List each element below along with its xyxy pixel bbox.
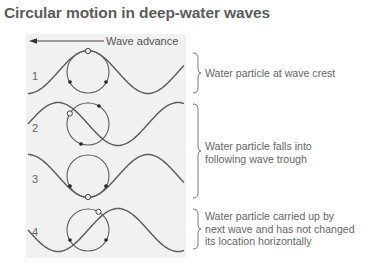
caption-line: Water particle at wave crest: [205, 67, 335, 80]
water-particle: [96, 209, 101, 214]
direction-arrow-icon: [104, 184, 108, 188]
brace-1: [193, 53, 201, 93]
direction-arrow-icon: [68, 184, 72, 188]
direction-arrow-icon: [104, 238, 108, 242]
caption-line: its location horizontally: [205, 235, 355, 248]
row-number: 2: [32, 122, 38, 134]
caption-carried: Water particle carried up by next wave a…: [205, 210, 355, 248]
row-number: 4: [32, 226, 38, 238]
direction-arrow-icon: [104, 80, 108, 84]
row-number: 1: [32, 70, 38, 82]
direction-arrow-icon: [68, 238, 72, 242]
water-particle: [85, 194, 90, 199]
brace-2: [193, 104, 201, 198]
wave-advance-arrow: [29, 38, 104, 43]
caption-line: Water particle carried up by: [205, 210, 355, 223]
wave-row-2: 2: [28, 103, 184, 146]
direction-arrow-icon: [79, 142, 83, 146]
wave-advance-label: Wave advance: [106, 35, 178, 47]
water-particle: [85, 48, 90, 53]
wave-row-3: 3: [28, 155, 184, 200]
wave-curve: [28, 51, 184, 94]
arrow-head-icon: [29, 38, 37, 43]
direction-arrow-icon: [68, 80, 72, 84]
orbit-circle: [67, 51, 109, 93]
brace-3: [193, 209, 201, 249]
caption-crest: Water particle at wave crest: [205, 67, 335, 80]
orbit-circle: [67, 155, 109, 197]
caption-falls: Water particle falls into following wave…: [205, 140, 312, 165]
row-number: 3: [32, 173, 38, 185]
caption-line: following wave trough: [205, 153, 312, 166]
wave-curve: [28, 209, 184, 252]
direction-arrow-icon: [97, 104, 101, 108]
caption-line: next wave and has not changed: [205, 223, 355, 236]
wave-curve: [28, 155, 184, 198]
water-particle: [67, 111, 72, 116]
wave-row-1: 1: [28, 48, 184, 93]
wave-curve: [28, 103, 184, 146]
wave-row-4: 4: [28, 209, 184, 252]
caption-line: Water particle falls into: [205, 140, 312, 153]
